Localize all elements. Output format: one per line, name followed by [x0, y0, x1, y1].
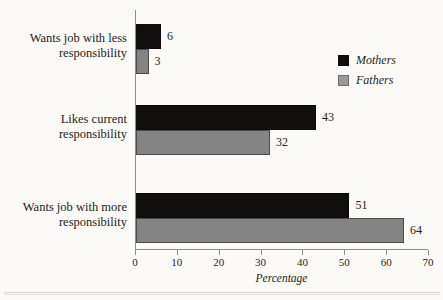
x-tick-20 [219, 250, 220, 255]
category-label-line-1: Wants job with more [0, 200, 127, 215]
bar-fathers-group-0[interactable] [136, 49, 149, 74]
bar-value-label-fathers-group-1: 32 [276, 136, 288, 149]
x-tick-label-30: 30 [246, 256, 276, 268]
x-tick-60 [386, 250, 387, 255]
page-rule-divider [4, 292, 440, 293]
legend-item-fathers: Fathers [338, 70, 396, 90]
legend-label-mothers: Mothers [356, 54, 396, 67]
x-axis-title: Percentage [135, 272, 428, 285]
x-tick-label-60: 60 [371, 256, 401, 268]
bar-mothers-group-1[interactable] [136, 105, 316, 130]
x-tick-40 [302, 250, 303, 255]
x-tick-label-70: 70 [413, 256, 443, 268]
category-label-line-1: Likes current [0, 112, 127, 127]
x-tick-label-50: 50 [329, 256, 359, 268]
gray-square-swatch-icon [338, 75, 349, 86]
x-axis-line [135, 249, 428, 250]
bar-fathers-group-1[interactable] [136, 130, 270, 155]
x-tick-30 [261, 250, 262, 255]
category-label-line-2: responsibility [0, 46, 127, 61]
x-tick-70 [428, 250, 429, 255]
x-tick-label-40: 40 [287, 256, 317, 268]
page-rule-divider-secondary [4, 294, 440, 295]
legend: Mothers Fathers [338, 50, 396, 90]
black-square-swatch-icon [338, 55, 349, 66]
bar-value-label-mothers-group-0: 6 [167, 30, 173, 43]
bar-value-label-fathers-group-0: 3 [155, 55, 161, 68]
bar-value-label-fathers-group-2: 64 [410, 224, 422, 237]
bar-fathers-group-2[interactable] [136, 218, 404, 243]
bar-chart-figure: 010203040506070 Wants job with less resp… [0, 0, 443, 300]
category-label-likes-current: Likes current responsibility [0, 112, 127, 142]
legend-item-mothers: Mothers [338, 50, 396, 70]
x-tick-0 [135, 250, 136, 255]
category-label-wants-more: Wants job with more responsibility [0, 200, 127, 230]
category-label-wants-less: Wants job with less responsibility [0, 31, 127, 61]
category-label-line-2: responsibility [0, 215, 127, 230]
x-tick-label-10: 10 [162, 256, 192, 268]
bar-mothers-group-0[interactable] [136, 24, 161, 49]
category-label-line-2: responsibility [0, 127, 127, 142]
x-tick-label-20: 20 [204, 256, 234, 268]
bar-value-label-mothers-group-1: 43 [322, 111, 334, 124]
x-tick-50 [344, 250, 345, 255]
category-label-line-1: Wants job with less [0, 31, 127, 46]
x-tick-10 [177, 250, 178, 255]
bar-mothers-group-2[interactable] [136, 193, 349, 218]
x-tick-label-0: 0 [120, 256, 150, 268]
bar-value-label-mothers-group-2: 51 [355, 199, 367, 212]
legend-label-fathers: Fathers [356, 74, 393, 87]
